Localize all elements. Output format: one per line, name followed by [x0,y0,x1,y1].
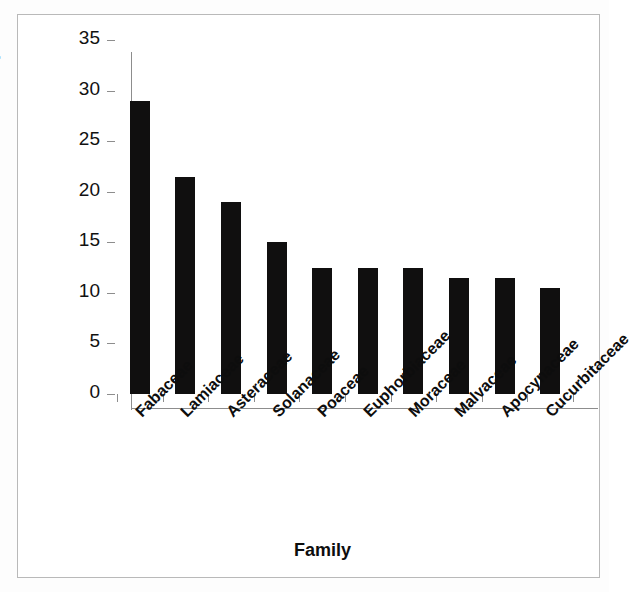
y-axis-title: Number of species [0,4,1,165]
x-axis-tick [117,394,118,402]
y-axis-tick [107,192,115,193]
y-axis-tick-label: 35 [48,27,100,49]
y-axis-tick [107,343,115,344]
y-axis-tick-label: 15 [48,229,100,251]
y-axis-tick [107,293,115,294]
y-axis-tick-label: 10 [48,280,100,302]
y-axis-tick [107,40,115,41]
y-axis-tick [107,141,115,142]
y-axis-tick-label: 0 [48,381,100,403]
x-axis-title: Family [18,540,627,561]
bar [130,101,150,394]
y-axis-tick-label: 5 [48,330,100,352]
y-axis-tick-label: 25 [48,128,100,150]
figure-border: 05101520253035 FabaceaeLamiaceaeAsterace… [17,14,600,578]
y-axis-tick-label: 20 [48,179,100,201]
y-axis-tick-label: 30 [48,78,100,100]
y-axis-tick [107,91,115,92]
y-axis-tick [107,394,115,395]
y-axis-tick [107,242,115,243]
